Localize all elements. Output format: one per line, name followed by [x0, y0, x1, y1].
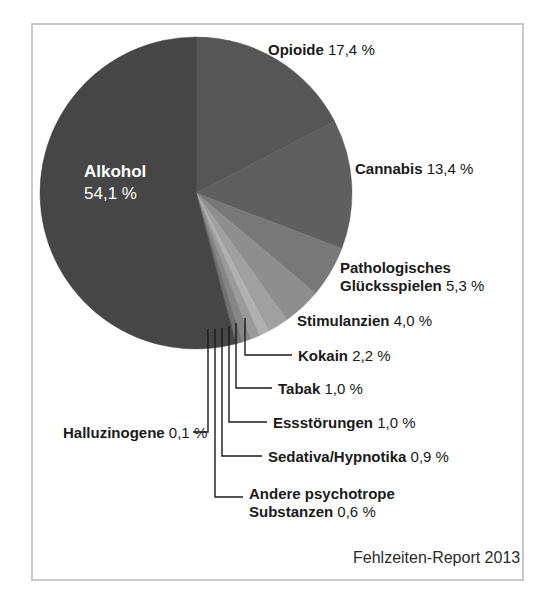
slice-label-andere-psychotrope-substanzen: Andere psychotrope Substanzen 0,6 %: [249, 485, 459, 522]
slice-label-cannabis-name: Cannabis: [355, 160, 423, 177]
slice-label-kokain-value: 2,2 %: [352, 347, 390, 364]
slice-label-opioide-value: 17,4 %: [328, 41, 375, 58]
figure-credit: Fehlzeiten-Report 2013: [353, 549, 520, 567]
slice-label-sedativa-value: 0,9 %: [411, 448, 449, 465]
slice-label-kokain: Kokain 2,2 %: [298, 347, 391, 365]
slice-label-essstoerungen-value: 1,0 %: [377, 414, 415, 431]
slice-label-alkohol-name: Alkohol: [84, 161, 146, 183]
slice-label-halluzinogene-name: Halluzinogene: [63, 424, 165, 441]
slice-label-tabak-value: 1,0 %: [324, 380, 362, 397]
slice-label-andere-name-line2: Substanzen: [249, 503, 333, 520]
slice-label-sedativa-name: Sedativa/Hypnotika: [268, 448, 406, 465]
slice-label-stimulanzien: Stimulanzien 4,0 %: [297, 312, 432, 330]
leader-line-sedativa: [222, 328, 262, 456]
slice-label-halluzinogene-value: 0,1 %: [169, 424, 207, 441]
slice-label-alkohol: Alkohol 54,1 %: [84, 161, 146, 205]
slice-label-gambling-name-line1: Pathologisches: [340, 259, 451, 276]
slice-label-sedativa-hypnotika: Sedativa/Hypnotika 0,9 %: [268, 448, 449, 466]
slice-label-tabak-name: Tabak: [278, 380, 320, 397]
slice-label-alkohol-value: 54,1 %: [84, 183, 146, 205]
slice-label-andere-value: 0,6 %: [337, 503, 375, 520]
slice-label-gambling-value: 5,3 %: [446, 277, 484, 294]
figure-root: Alkohol 54,1 % Opioide 17,4 % Cannabis 1…: [0, 0, 553, 611]
slice-label-cannabis-value: 13,4 %: [427, 160, 474, 177]
slice-label-kokain-name: Kokain: [298, 347, 348, 364]
leader-line-group: [193, 318, 292, 497]
slice-label-halluzinogene: Halluzinogene 0,1 %: [63, 424, 207, 442]
slice-label-opioide-name: Opioide: [268, 41, 324, 58]
slice-label-stimulanzien-name: Stimulanzien: [297, 312, 390, 329]
slice-label-andere-name-line1: Andere psychotrope: [249, 485, 395, 502]
slice-label-tabak: Tabak 1,0 %: [278, 380, 363, 398]
slice-label-gambling-name-line2: Glücksspielen: [340, 277, 442, 294]
slice-label-essstoerungen: Essstörungen 1,0 %: [273, 414, 416, 432]
slice-label-essstoerungen-name: Essstörungen: [273, 414, 373, 431]
slice-label-cannabis: Cannabis 13,4 %: [355, 160, 473, 178]
slice-label-opioide: Opioide 17,4 %: [268, 41, 375, 59]
slice-label-pathologisches-gluecksspielen: Pathologisches Glücksspielen 5,3 %: [340, 259, 520, 296]
slice-label-stimulanzien-value: 4,0 %: [394, 312, 432, 329]
